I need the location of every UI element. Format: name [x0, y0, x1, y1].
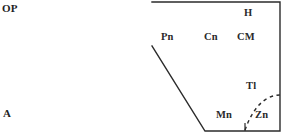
label-zn: Zn	[255, 110, 268, 121]
label-h: H	[244, 8, 252, 19]
label-a: A	[3, 108, 11, 119]
label-pn: Pn	[161, 32, 174, 43]
label-op: OP	[2, 3, 18, 14]
label-tl: Tl	[246, 81, 256, 92]
label-cm: CM	[237, 32, 255, 43]
diagram-svg	[0, 0, 284, 137]
figure-canvas: OP A Pn Cn CM H Tl Mn Zn	[0, 0, 284, 137]
label-cn: Cn	[204, 32, 218, 43]
label-mn: Mn	[216, 110, 232, 121]
